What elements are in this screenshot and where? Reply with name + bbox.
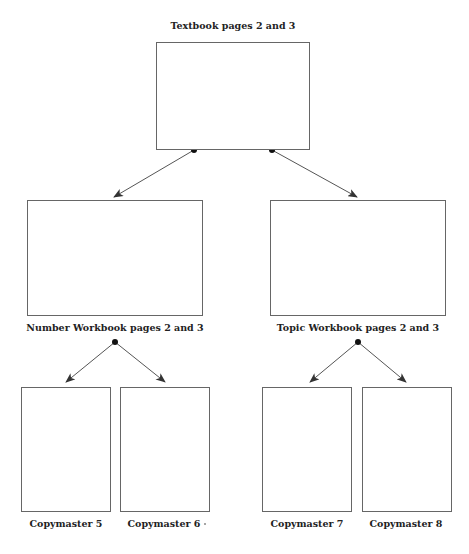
diagram-canvas: Textbook pages 2 and 3 Number Workbook p…: [0, 0, 469, 554]
branch-dot: [355, 339, 361, 345]
arrow-to-copymaster-6: [115, 342, 165, 382]
arrow-to-copymaster-5: [66, 342, 115, 382]
topic-workbook-label: Topic Workbook pages 2 and 3: [277, 322, 439, 333]
arrow-to-copymaster-8: [358, 342, 406, 382]
copymaster-5-box: [21, 387, 111, 512]
copymaster-7-box: [262, 387, 352, 512]
textbook-page-box: [156, 42, 310, 150]
copymaster-8-label: Copymaster 8: [370, 518, 443, 529]
arrow-to-topic-workbook: [272, 150, 357, 197]
number-workbook-page-box: [27, 200, 203, 316]
topic-workbook-page-box: [270, 200, 446, 316]
copymaster-7-label: Copymaster 7: [271, 518, 344, 529]
stray-mark: [204, 523, 206, 525]
copymaster-8-box: [362, 387, 452, 512]
copymaster-6-box: [120, 387, 210, 512]
copymaster-6-label: Copymaster 6: [128, 518, 201, 529]
number-workbook-label: Number Workbook pages 2 and 3: [26, 322, 203, 333]
textbook-label: Textbook pages 2 and 3: [171, 20, 296, 31]
arrow-to-number-workbook: [114, 150, 194, 197]
arrow-to-copymaster-7: [310, 342, 358, 382]
copymaster-5-label: Copymaster 5: [30, 518, 103, 529]
branch-dot: [112, 339, 118, 345]
